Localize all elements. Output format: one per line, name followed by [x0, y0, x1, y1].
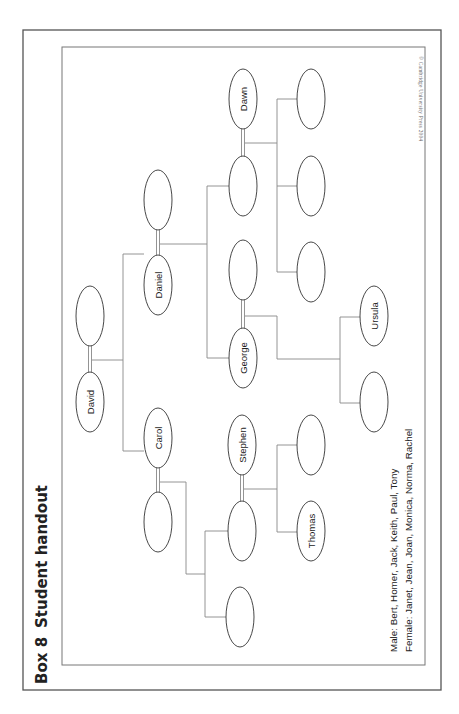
person-node-empty[interactable]	[144, 492, 172, 552]
person-label-carol: Carol	[153, 427, 164, 450]
person-node-empty[interactable]	[76, 286, 104, 346]
person-label-dawn: Dawn	[238, 87, 249, 111]
person-node-empty[interactable]	[229, 240, 257, 300]
legend-female: Female: Janet, Jean, Joan, Monica, Norma…	[403, 429, 414, 652]
person-label-david: David	[85, 390, 96, 414]
person-node-empty[interactable]	[229, 156, 257, 216]
person-node-dawn[interactable]: Dawn	[229, 69, 257, 129]
person-label-thomas: Thomas	[306, 514, 317, 549]
person-node-empty[interactable]	[228, 501, 256, 561]
copyright-notice: © Cambridge University Press 2004	[418, 56, 424, 141]
page-title: Student handout	[33, 485, 51, 628]
person-node-empty[interactable]	[297, 415, 325, 475]
person-label-stephen: Stephen	[237, 427, 248, 462]
person-label-ursula: Ursula	[369, 302, 380, 330]
handout-page: Box 8 Student handout © Cambridge Univer…	[0, 0, 459, 714]
person-node-empty[interactable]	[297, 156, 325, 216]
person-node-ursula[interactable]: Ursula	[360, 286, 388, 346]
person-node-david[interactable]: David	[76, 372, 104, 432]
person-node-empty[interactable]	[297, 242, 325, 302]
person-node-empty[interactable]	[226, 587, 254, 647]
person-node-thomas[interactable]: Thomas	[297, 501, 325, 561]
person-node-george[interactable]: George	[229, 328, 257, 388]
person-node-daniel[interactable]: Daniel	[144, 255, 172, 315]
person-node-empty[interactable]	[297, 69, 325, 129]
person-label-george: George	[238, 342, 249, 374]
box-label: Box 8	[33, 637, 51, 684]
person-node-stephen[interactable]: Stephen	[228, 415, 256, 475]
legend-male: Male: Bert, Homer, Jack, Keith, Paul, To…	[388, 469, 399, 652]
person-node-empty[interactable]	[360, 372, 388, 432]
person-label-daniel: Daniel	[153, 272, 164, 299]
person-node-empty[interactable]	[144, 170, 172, 230]
person-node-carol[interactable]: Carol	[144, 408, 172, 468]
